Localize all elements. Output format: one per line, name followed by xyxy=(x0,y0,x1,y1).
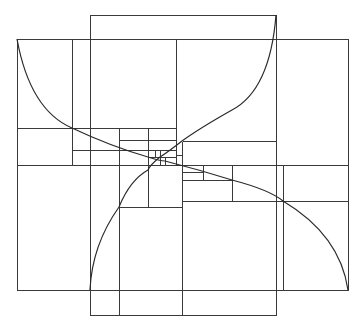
golden-spiral-diagram xyxy=(0,0,361,325)
diagram-svg xyxy=(0,0,361,325)
subdivision-lines-group xyxy=(18,40,349,316)
